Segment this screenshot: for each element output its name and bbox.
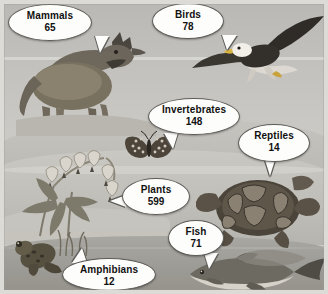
callout-birds[interactable]: Birds 78 [152,3,224,39]
callout-tail-mammals [95,36,109,53]
callout-label-fish: Fish [178,226,214,237]
callout-reptiles[interactable]: Reptiles 14 [238,124,310,162]
callout-value-reptiles: 14 [248,142,300,153]
wolf-illustration [16,24,156,136]
callout-value-invertebrates: 148 [158,116,230,127]
callout-value-fish: 71 [178,238,214,249]
callout-label-plants: Plants [132,184,180,195]
callout-tail-reptiles [265,160,275,176]
callout-value-mammals: 65 [18,22,82,33]
callout-value-amphibians: 12 [72,276,146,287]
background-fish-illustration [230,246,310,268]
callout-amphibians[interactable]: Amphibians 12 [62,258,156,291]
infographic-scene: Mammals 65 Birds 78 Invertebrates 148 Re… [0,0,328,294]
callout-invertebrates[interactable]: Invertebrates 148 [148,98,240,135]
callout-label-mammals: Mammals [18,10,82,21]
callout-fish[interactable]: Fish 71 [168,220,224,256]
callout-tail-fish [204,253,218,269]
callout-label-birds: Birds [162,9,214,20]
callout-plants[interactable]: Plants 599 [122,178,190,215]
callout-tail-birds [222,35,237,50]
callout-value-plants: 599 [132,196,180,207]
callout-label-reptiles: Reptiles [248,130,300,141]
callout-value-birds: 78 [162,21,214,32]
callout-label-invertebrates: Invertebrates [158,104,230,115]
callout-label-amphibians: Amphibians [72,264,146,275]
callout-mammals[interactable]: Mammals 65 [8,4,92,41]
callout-tail-invertebrates [164,133,178,149]
